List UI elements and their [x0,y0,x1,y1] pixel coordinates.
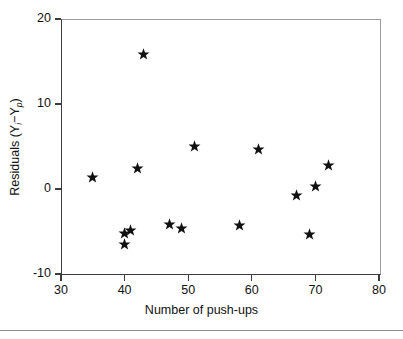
y-axis-label-wrap: Residuals (Yi−Yp) [0,0,30,294]
x-tick-70 [315,275,316,281]
y-tick-20 [55,18,61,19]
data-point [322,159,335,172]
x-ticklabel-80: 80 [359,283,399,297]
x-ticklabel-60: 60 [232,283,272,297]
data-point [290,189,303,202]
x-axis-label: Number of push-ups [0,303,403,317]
y-axis-label-prefix: Residuals (Y [8,125,22,196]
footer-divider [0,330,403,331]
plot-area [61,19,381,275]
data-point [309,180,322,193]
data-point [137,48,150,61]
y-axis-label: Residuals (Yi−Yp) [8,98,22,195]
x-tick-50 [188,275,189,281]
x-ticklabel-50: 50 [168,283,208,297]
data-point [252,143,265,156]
data-point [131,162,144,175]
data-point [118,238,131,251]
x-ticklabel-40: 40 [105,283,145,297]
data-point [188,140,201,153]
data-point [233,219,246,232]
x-ticklabel-30: 30 [41,283,81,297]
y-axis-label-sub-i: i [14,123,24,125]
x-tick-40 [124,275,125,281]
data-point [124,224,137,237]
x-tick-80 [378,275,379,281]
data-point [303,228,316,241]
data-point [175,222,188,235]
y-axis-label-minus: −Y [8,107,22,123]
y-axis-label-sub-p: p [14,103,24,108]
y-tick-0 [55,188,61,189]
y-tick-10 [55,103,61,104]
data-point [163,218,176,231]
x-tick-30 [60,275,61,281]
data-point [86,171,99,184]
residual-plot-figure: 304050607080 20100-10 Number of push-ups… [0,0,403,339]
y-tick--10 [55,273,61,274]
x-tick-60 [251,275,252,281]
x-ticklabel-70: 70 [295,283,335,297]
